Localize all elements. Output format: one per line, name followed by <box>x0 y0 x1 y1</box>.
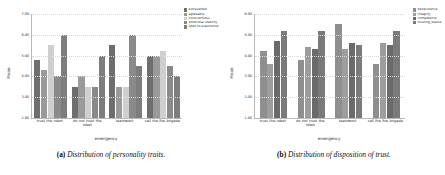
y-tick-label: 5.00 <box>21 54 29 58</box>
bar-groups-b <box>255 14 405 118</box>
y-axis-ticks-a: 7.006.005.004.003.002.00 <box>14 14 30 118</box>
legend-swatch-icon <box>184 17 188 20</box>
bar <box>349 43 355 118</box>
figure-sheet: Mean 7.006.005.004.003.002.00 trust the … <box>0 0 445 175</box>
bar-groups-a <box>32 14 182 118</box>
bar <box>153 56 159 118</box>
caption-b-label: (b) <box>277 150 286 159</box>
bar <box>335 24 341 118</box>
bar-group <box>107 14 145 118</box>
bar <box>85 87 91 118</box>
y-tick-label: 4.00 <box>244 54 252 58</box>
bar-group <box>70 14 108 118</box>
x-axis-label-a: emergency <box>31 136 181 141</box>
y-axis-label-b: Mean <box>229 67 234 78</box>
y-tick-label: 6.00 <box>244 12 252 16</box>
bar <box>99 56 105 118</box>
caption-a-label: (a) <box>57 150 66 159</box>
bar <box>274 41 280 118</box>
bar <box>318 31 324 118</box>
gridline <box>32 35 182 36</box>
bar <box>373 64 379 118</box>
legend-item: trusting_stance <box>413 21 442 25</box>
legend-swatch-icon <box>184 25 188 28</box>
gridline <box>32 97 182 98</box>
legend-swatch-icon <box>184 13 188 16</box>
x-axis-ticks-a: trust the robotdo not trust the robottea… <box>31 119 181 137</box>
y-axis-label-a: Mean <box>6 67 11 78</box>
gridline <box>255 14 405 15</box>
figure-a: Mean 7.006.005.004.003.002.00 trust the … <box>0 0 222 175</box>
bar-group <box>145 14 183 118</box>
legend-swatch-icon <box>184 21 188 24</box>
gridline <box>255 97 405 98</box>
bar <box>305 47 311 118</box>
legend-swatch-icon <box>413 21 417 24</box>
bar <box>92 87 98 118</box>
bar <box>147 56 153 118</box>
figure-b: Mean 6.005.004.003.002.001.00 trust the … <box>223 0 445 175</box>
y-tick-label: 4.00 <box>21 74 29 78</box>
x-tick-label: trust the robot <box>31 119 69 137</box>
bar-group <box>32 14 70 118</box>
gridline <box>32 14 182 15</box>
legend-item: open to experience <box>184 25 219 29</box>
bar <box>267 64 273 118</box>
gridline <box>32 56 182 57</box>
bar-group <box>368 14 406 118</box>
legend-b: benevolenceintegritycompetencetrusting_s… <box>411 7 443 26</box>
bar <box>167 66 173 118</box>
gridline <box>255 56 405 57</box>
caption-b: (b) Distribution of disposition of trust… <box>223 150 445 159</box>
bar <box>160 51 166 118</box>
bar <box>72 87 78 118</box>
axes-b <box>254 14 405 119</box>
y-tick-label: 5.00 <box>244 33 252 37</box>
gridline <box>32 76 182 77</box>
bar-group <box>330 14 368 118</box>
bar <box>342 49 348 118</box>
x-axis-label-b: emergency <box>254 136 404 141</box>
plot-area-a: Mean 7.006.005.004.003.002.00 trust the … <box>0 0 222 146</box>
x-tick-label: teamwork <box>106 119 144 137</box>
bar <box>123 87 129 118</box>
x-tick-label: call the fire brigade <box>144 119 182 137</box>
legend-swatch-icon <box>184 8 188 11</box>
y-tick-label: 7.00 <box>21 12 29 16</box>
y-axis-ticks-b: 6.005.004.003.002.001.00 <box>237 14 253 118</box>
bar <box>281 31 287 118</box>
axes-a <box>31 14 182 119</box>
bar <box>393 31 399 118</box>
y-tick-label: 6.00 <box>21 33 29 37</box>
caption-a-text: Distribution of personality traits. <box>67 150 165 159</box>
y-tick-label: 2.00 <box>21 116 29 120</box>
x-tick-label: do not trust the robot <box>69 119 107 137</box>
gridline <box>255 35 405 36</box>
x-tick-label: trust the robot <box>254 119 292 137</box>
x-tick-label: call the fire brigade <box>367 119 405 137</box>
y-tick-label: 3.00 <box>21 95 29 99</box>
legend-swatch-icon <box>413 8 417 11</box>
bar-group <box>293 14 331 118</box>
y-tick-label: 2.00 <box>244 95 252 99</box>
bar <box>298 60 304 118</box>
legend-a: extravertedagreeableconscientiousemotion… <box>182 7 220 30</box>
bar <box>260 51 266 118</box>
legend-label: trusting_stance <box>418 21 442 24</box>
y-tick-label: 1.00 <box>244 116 252 120</box>
bar <box>136 66 142 118</box>
legend-swatch-icon <box>413 17 417 20</box>
bar-group <box>255 14 293 118</box>
x-axis-ticks-b: trust the robotdo not trust the robottea… <box>254 119 404 137</box>
y-tick-label: 3.00 <box>244 74 252 78</box>
gridline <box>255 76 405 77</box>
legend-label: open to experience <box>189 25 219 28</box>
bar <box>34 60 40 118</box>
plot-area-b: Mean 6.005.004.003.002.001.00 trust the … <box>223 0 445 146</box>
bar <box>380 43 386 118</box>
x-tick-label: do not trust the robot <box>292 119 330 137</box>
bar <box>116 87 122 118</box>
caption-b-text: Distribution of disposition of trust. <box>288 150 391 159</box>
caption-a: (a) Distribution of personality traits. <box>0 150 222 159</box>
legend-swatch-icon <box>413 13 417 16</box>
